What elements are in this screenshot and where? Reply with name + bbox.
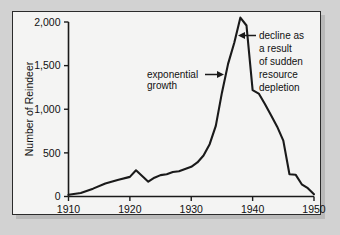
x-tick-label: 1910 [57,203,81,215]
arrow-right-icon [205,71,224,78]
figure-root: 05001,0001,5002,000 19101920193019401950… [0,0,340,235]
y-tick-label: 500 [43,147,61,159]
annotation-exponential-growth: exponential growth [147,69,224,91]
annotation-sudden-decline-line-4: resource [259,69,298,80]
y-axis-tick-labels: 05001,0001,5002,000 [34,16,60,203]
x-tick-label: 1920 [118,203,142,215]
x-tick-label: 1950 [302,203,326,215]
y-tick-label: 0 [55,190,61,202]
annotation-exponential-growth-line-2: growth [147,80,177,91]
annotation-sudden-decline-line-5: depletion [259,82,300,93]
annotation-exponential-growth-line-1: exponential [147,69,198,80]
annotation-sudden-decline-line-1: decline as [259,30,304,41]
x-tick-label: 1930 [180,203,204,215]
y-tick-label: 2,000 [34,16,60,28]
y-tick-label: 1,500 [34,59,60,71]
x-axis-tick-labels: 19101920193019401950 [57,203,326,215]
annotation-sudden-decline-line-2: a result [259,43,292,54]
y-axis-title: Number of Reindeer [23,61,35,156]
y-tick-label: 1,000 [34,103,60,115]
x-tick-label: 1940 [241,203,265,215]
annotation-sudden-decline-line-3: of sudden [259,56,303,67]
reindeer-population-chart: 05001,0001,5002,000 19101920193019401950… [0,0,340,235]
